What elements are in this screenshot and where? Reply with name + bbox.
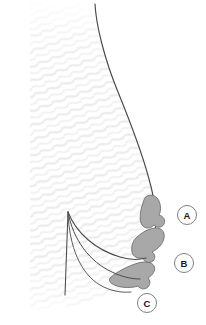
label-c-text: C: [144, 298, 151, 309]
lobe-a-shape: [140, 195, 164, 228]
label-c[interactable]: C: [138, 294, 157, 313]
anatomical-figure: A B C: [0, 0, 206, 325]
figure-canvas: A B C: [0, 0, 206, 325]
label-a-text: A: [184, 210, 191, 221]
label-b-text: B: [181, 258, 188, 269]
label-b[interactable]: B: [175, 254, 194, 273]
label-a[interactable]: A: [178, 206, 197, 225]
